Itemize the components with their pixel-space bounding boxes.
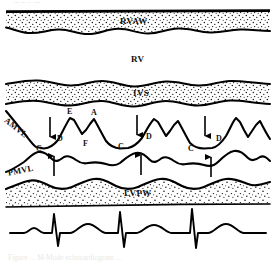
label-point-c3: C — [188, 145, 194, 153]
m-mode-echocardiogram-figure: ... ... .. .... — [0, 0, 275, 264]
label-point-c2: C — [118, 143, 124, 151]
label-point-c1: C — [36, 145, 42, 153]
label-rvaw: RVAW — [120, 17, 148, 26]
trace-ecg — [10, 209, 266, 248]
label-point-e: E — [67, 108, 72, 116]
trace-pmvl — [6, 151, 270, 172]
label-point-d2: D — [146, 133, 152, 141]
arrow-up-pmvl — [54, 155, 211, 177]
label-point-d1: D — [57, 135, 63, 143]
label-rv: RV — [131, 55, 144, 64]
label-lvpw: LVPW — [124, 189, 152, 198]
bottom-caption-fragment: Figure ... M-Mode echocardiogram ... — [8, 253, 270, 264]
echo-tracing-canvas — [0, 0, 275, 264]
label-point-f: F — [83, 140, 88, 148]
label-ivs: IVS — [133, 89, 149, 98]
trace-amvl — [6, 111, 270, 149]
label-point-a: A — [91, 109, 97, 117]
label-point-d3: D — [216, 135, 222, 143]
